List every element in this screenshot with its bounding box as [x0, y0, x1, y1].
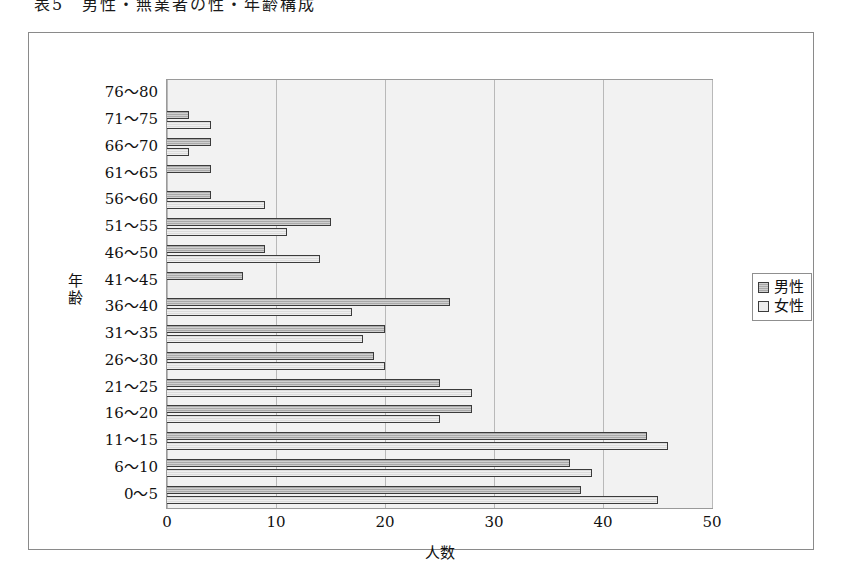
- bar-row: [167, 214, 712, 241]
- bar-series-group: [167, 80, 712, 508]
- gridline-50: [712, 80, 713, 508]
- bar-male: [167, 272, 243, 280]
- bar-row: [167, 481, 712, 508]
- bar-row: [167, 80, 712, 107]
- bar-male: [167, 379, 440, 387]
- legend-swatch-male-icon: [758, 282, 769, 293]
- bar-female: [167, 201, 265, 209]
- bar-male: [167, 486, 581, 494]
- bar-female: [167, 362, 385, 370]
- legend-label-male: 男性: [774, 278, 804, 297]
- bar-row: [167, 160, 712, 187]
- legend-label-female: 女性: [774, 297, 804, 316]
- y-axis-label: 41～45: [105, 273, 158, 288]
- bar-male: [167, 245, 265, 253]
- y-axis-label: 11～15: [105, 433, 158, 448]
- y-axis-label: 46～50: [105, 246, 158, 261]
- figure-caption: 表5 男性・無業者の性・年齢構成: [34, 0, 316, 15]
- bar-row: [167, 428, 712, 455]
- y-axis-category-labels: 76～8071～7566～7061～6556～6051～5546～5041～45…: [29, 79, 166, 509]
- bar-female: [167, 496, 658, 504]
- y-axis-label: 71～75: [105, 112, 158, 127]
- bar-female: [167, 255, 320, 263]
- y-axis-label: 36～40: [105, 299, 158, 314]
- y-axis-label: 21～25: [105, 380, 158, 395]
- bar-row: [167, 241, 712, 268]
- bar-row: [167, 348, 712, 375]
- bar-row: [167, 107, 712, 134]
- y-axis-label: 0～5: [124, 487, 158, 502]
- bar-male: [167, 138, 211, 146]
- legend-swatch-female-icon: [758, 301, 769, 312]
- bar-female: [167, 121, 211, 129]
- y-axis-label: 61～65: [105, 166, 158, 181]
- bar-male: [167, 218, 331, 226]
- bar-male: [167, 191, 211, 199]
- x-axis-tick-label: 0: [162, 515, 172, 530]
- bar-female: [167, 415, 440, 423]
- bar-row: [167, 374, 712, 401]
- y-axis-label: 76～80: [105, 85, 158, 100]
- legend-item-male: 男性: [758, 278, 804, 297]
- x-axis-tick-label: 50: [702, 515, 721, 530]
- bar-row: [167, 187, 712, 214]
- figure-frame: 年 齢 76～8071～7566～7061～6556～6051～5546～504…: [28, 32, 814, 550]
- bar-male: [167, 432, 647, 440]
- bar-male: [167, 352, 374, 360]
- x-axis-tick-label: 10: [266, 515, 285, 530]
- y-axis-label: 51～55: [105, 219, 158, 234]
- plot-area: [166, 79, 713, 509]
- bar-female: [167, 389, 472, 397]
- bar-female: [167, 469, 592, 477]
- bar-male: [167, 325, 385, 333]
- y-axis-label: 31～35: [105, 326, 158, 341]
- y-axis-label: 6～10: [114, 460, 158, 475]
- bar-male: [167, 405, 472, 413]
- bar-row: [167, 321, 712, 348]
- bar-female: [167, 442, 668, 450]
- x-axis-tick-label: 20: [375, 515, 394, 530]
- y-axis-label: 66～70: [105, 139, 158, 154]
- bar-row: [167, 401, 712, 428]
- bar-female: [167, 228, 287, 236]
- x-axis-tick-label: 30: [484, 515, 503, 530]
- bar-male: [167, 165, 211, 173]
- bar-row: [167, 294, 712, 321]
- bar-female: [167, 308, 352, 316]
- bar-row: [167, 455, 712, 482]
- legend-item-female: 女性: [758, 297, 804, 316]
- bar-male: [167, 459, 570, 467]
- bar-male: [167, 298, 450, 306]
- bar-female: [167, 148, 189, 156]
- bar-male: [167, 111, 189, 119]
- bar-row: [167, 267, 712, 294]
- bar-row: [167, 134, 712, 161]
- x-axis-tick-labels: 01020304050: [166, 515, 713, 539]
- x-axis-title: 人数: [166, 541, 713, 562]
- x-axis-tick-label: 40: [593, 515, 612, 530]
- chart-legend: 男性 女性: [752, 273, 812, 321]
- y-axis-label: 16～20: [105, 406, 158, 421]
- bar-female: [167, 335, 363, 343]
- y-axis-label: 26～30: [105, 353, 158, 368]
- y-axis-label: 56～60: [105, 192, 158, 207]
